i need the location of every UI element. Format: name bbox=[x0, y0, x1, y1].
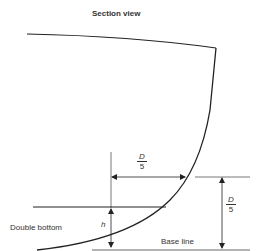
deck-line bbox=[27, 34, 216, 48]
horizontal-dimension-label: D 5 bbox=[137, 152, 147, 171]
fraction-numerator: D bbox=[137, 152, 147, 162]
base-line-label: Base line bbox=[161, 237, 194, 246]
h-label: h bbox=[101, 220, 105, 229]
section-view-diagram: Section view D 5 bbox=[0, 0, 272, 251]
vertical-dimension-label: D 5 bbox=[226, 195, 236, 214]
fraction-denominator: 5 bbox=[140, 162, 144, 171]
fraction-denominator: 5 bbox=[229, 205, 233, 214]
fraction-numerator: D bbox=[226, 195, 236, 205]
double-bottom-label: Double bottom bbox=[10, 223, 62, 232]
hull-side-curve bbox=[37, 48, 216, 250]
